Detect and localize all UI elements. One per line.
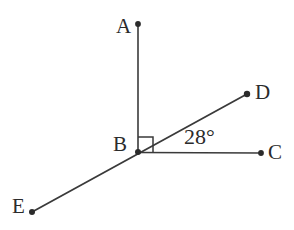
point-C-dot bbox=[258, 150, 264, 156]
point-A-dot bbox=[135, 21, 141, 27]
point-E-dot bbox=[29, 209, 35, 215]
point-B-dot bbox=[135, 149, 141, 155]
point-label-D: D bbox=[255, 82, 270, 103]
point-label-C: C bbox=[268, 142, 282, 163]
point-D-dot bbox=[244, 91, 250, 97]
point-label-A: A bbox=[116, 16, 131, 37]
point-label-E: E bbox=[12, 196, 25, 217]
angle-label-DBC: 28° bbox=[184, 126, 215, 148]
point-label-B: B bbox=[113, 134, 127, 155]
ray-BC bbox=[138, 153, 261, 154]
diagram-svg bbox=[0, 0, 294, 230]
geometry-diagram-canvas: A B C D E 28° bbox=[0, 0, 294, 230]
